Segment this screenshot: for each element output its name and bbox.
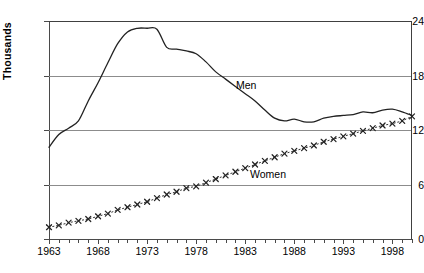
women-data-point-marker [262,158,267,163]
women-data-point-marker [370,126,375,131]
women-data-point-marker [96,214,101,219]
women-data-point-marker [400,118,405,123]
women-data-point-marker [125,205,130,210]
women-data-point-marker [203,180,208,185]
women-data-point-marker [154,196,159,201]
women-data-point-marker [223,173,228,178]
men-line [49,28,412,148]
women-data-point-marker [311,143,316,148]
women-data-point-marker [213,177,218,182]
women-data-point-marker [164,192,169,197]
women-data-point-marker [66,220,71,225]
women-data-point-marker [233,169,238,174]
women-connector-line [49,116,412,227]
women-data-point-marker [135,202,140,207]
women-data-point-marker [243,166,248,171]
chart-container: Thousands 06121824 196319681973197819831… [0,0,424,273]
women-data-point-marker [341,134,346,139]
series-men [49,28,412,148]
women-data-point-marker [105,211,110,216]
women-data-point-marker [272,155,277,160]
women-data-point-marker [282,151,287,156]
women-data-point-marker [174,189,179,194]
series-layer [0,0,424,273]
series-label-women: Women [250,169,286,180]
series-women [47,114,415,230]
women-data-point-marker [194,184,199,189]
women-data-point-marker [253,162,258,167]
series-label-men: Men [236,80,256,91]
women-data-point-marker [47,225,52,230]
